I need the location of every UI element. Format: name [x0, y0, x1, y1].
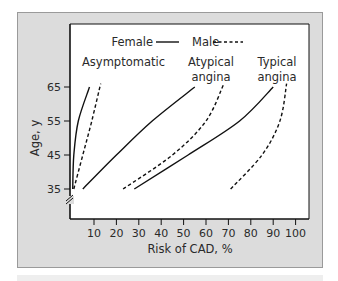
y-tick-label: 55: [47, 115, 61, 128]
label-atypical-line2: angina: [191, 70, 230, 84]
y-tick-label: 65: [47, 81, 61, 94]
x-tick-label: 80: [244, 227, 258, 240]
x-tick-label: 20: [109, 227, 123, 240]
label-atypical-line1: Atypical: [188, 55, 234, 69]
x-ticks: 102030405060708090100: [87, 219, 306, 240]
legend-female-label: Female: [111, 35, 153, 49]
x-tick-label: 50: [177, 227, 191, 240]
x-tick-label: 30: [132, 227, 146, 240]
x-tick-label: 60: [199, 227, 213, 240]
y-tick-label: 45: [47, 149, 61, 162]
x-tick-label: 90: [266, 227, 280, 240]
label-typical-line2: angina: [257, 70, 296, 84]
y-tick-label: 35: [47, 183, 61, 196]
x-tick-label: 40: [154, 227, 168, 240]
label-typical-line1: Typical: [256, 55, 296, 69]
x-tick-label: 70: [221, 227, 235, 240]
axis-break: [66, 195, 74, 204]
label-asymptomatic: Asymptomatic: [82, 55, 165, 69]
plot-area: [70, 24, 309, 219]
y-axis-label: Age, y: [28, 120, 42, 157]
x-axis-label: Risk of CAD, %: [147, 242, 232, 256]
y-ticks: 35455565: [47, 81, 70, 196]
x-tick-label: 10: [87, 227, 101, 240]
x-tick-label: 100: [285, 227, 306, 240]
